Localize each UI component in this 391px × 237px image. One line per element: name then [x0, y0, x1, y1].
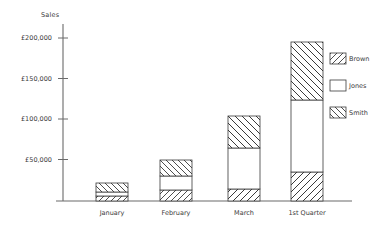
bar-segment-january-brown [96, 196, 128, 201]
bar-segment-february-smith [160, 160, 192, 176]
bar-segment-march-brown [228, 189, 260, 201]
bar-segment-1st-quarter-jones [291, 100, 323, 172]
bar-segment-january-jones [96, 192, 128, 196]
chart-canvas [0, 0, 391, 237]
bar-segment-1st-quarter-smith [291, 42, 323, 100]
sales-stacked-bar-chart: Sales £200,000 £150,000 £100,000 £50,000… [0, 0, 391, 237]
legend-swatch-smith [330, 107, 346, 118]
bar-segment-february-jones [160, 176, 192, 190]
bar-february [160, 160, 192, 201]
bar-segment-january-smith [96, 183, 128, 192]
bar-january [96, 183, 128, 201]
bar-segment-march-smith [228, 116, 260, 148]
legend-swatch-brown [330, 53, 346, 64]
legend-swatch-jones [330, 80, 346, 91]
bar-segment-march-jones [228, 148, 260, 189]
bar-1st-quarter [291, 42, 323, 201]
bar-segment-1st-quarter-brown [291, 172, 323, 201]
bar-march [228, 116, 260, 201]
bar-segment-february-brown [160, 190, 192, 201]
